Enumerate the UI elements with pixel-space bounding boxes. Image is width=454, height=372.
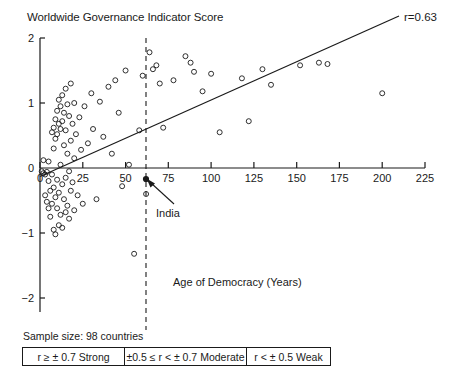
data-point[interactable] [51,185,56,190]
data-point[interactable] [41,158,46,163]
data-point[interactable] [60,93,65,98]
data-point[interactable] [63,175,68,180]
data-point[interactable] [380,91,385,96]
y-tick-label-0: 0 [18,162,34,174]
data-point[interactable] [77,115,82,120]
data-point[interactable] [56,97,61,102]
axes-group [40,38,425,312]
data-point[interactable] [53,117,58,122]
data-point[interactable] [60,225,65,230]
data-point[interactable] [200,89,205,94]
data-point[interactable] [56,190,61,195]
data-point[interactable] [67,216,72,221]
data-point[interactable] [44,199,49,204]
data-point[interactable] [94,197,99,202]
data-point[interactable] [43,193,48,198]
data-point[interactable] [192,69,197,74]
data-point[interactable] [260,67,265,72]
data-point[interactable] [70,180,75,185]
data-point[interactable] [91,127,96,132]
data-point[interactable] [123,68,128,73]
data-point[interactable] [68,81,73,86]
data-point[interactable] [55,177,60,182]
data-point[interactable] [316,60,321,65]
data-point[interactable] [188,60,193,65]
data-point[interactable] [269,82,274,87]
data-point[interactable] [60,119,65,124]
x-tick-label-50: 50 [119,172,131,184]
data-point[interactable] [209,71,214,76]
data-point[interactable] [68,188,73,193]
data-point[interactable] [109,151,114,156]
data-point[interactable] [97,99,102,104]
data-point[interactable] [61,110,66,115]
data-point[interactable] [58,104,63,109]
data-point[interactable] [49,172,54,177]
data-point[interactable] [67,169,72,174]
data-point[interactable] [55,108,60,113]
y-tick-label-minus2: −2 [18,292,34,304]
data-point[interactable] [298,63,303,68]
data-point[interactable] [63,210,68,215]
data-point[interactable] [239,76,244,81]
data-point[interactable] [46,159,51,164]
data-point[interactable] [53,195,58,200]
data-point[interactable] [61,197,66,202]
data-point[interactable] [72,156,77,161]
data-point[interactable] [51,125,56,130]
data-point[interactable] [126,162,131,167]
data-point[interactable] [82,104,87,109]
india-leader-line [151,183,174,204]
data-point[interactable] [132,251,137,256]
data-point[interactable] [56,121,61,126]
data-point[interactable] [46,179,51,184]
data-point[interactable] [79,147,84,152]
data-point[interactable] [154,63,159,68]
data-point[interactable] [65,203,70,208]
data-point[interactable] [246,119,251,124]
x-tick-label-100: 100 [202,172,220,184]
data-point[interactable] [55,132,60,137]
data-point[interactable] [85,141,90,146]
data-point[interactable] [55,206,60,211]
data-point[interactable] [161,125,166,130]
data-point[interactable] [65,102,70,107]
data-point[interactable] [49,201,54,206]
data-point[interactable] [61,143,66,148]
data-point[interactable] [80,201,85,206]
data-point[interactable] [120,184,125,189]
data-point[interactable] [65,151,70,156]
data-point[interactable] [325,62,330,67]
data-point[interactable] [217,130,222,135]
data-point[interactable] [89,91,94,96]
data-point[interactable] [63,128,68,133]
data-point[interactable] [140,73,145,78]
data-point[interactable] [147,50,152,55]
data-point[interactable] [72,208,77,213]
data-point[interactable] [56,223,61,228]
data-point[interactable] [70,121,75,126]
x-tick-label-225: 225 [416,172,434,184]
data-point[interactable] [67,114,72,119]
data-point[interactable] [106,84,111,89]
data-point[interactable] [58,212,63,217]
data-point[interactable] [113,78,118,83]
x-tick-label-175: 175 [330,172,348,184]
data-point[interactable] [63,86,68,91]
data-point[interactable] [51,146,56,151]
data-point[interactable] [157,81,162,86]
data-point[interactable] [46,206,51,211]
data-point[interactable] [60,182,65,187]
data-point[interactable] [48,214,53,219]
data-point[interactable] [53,232,58,237]
data-point[interactable] [68,138,73,143]
data-point[interactable] [183,54,188,59]
data-point[interactable] [75,193,80,198]
data-point[interactable] [101,134,106,139]
data-point[interactable] [72,101,77,106]
data-point[interactable] [58,127,63,132]
data-point[interactable] [171,78,176,83]
data-point[interactable] [73,132,78,137]
data-point[interactable] [58,162,63,167]
data-point[interactable] [116,110,121,115]
